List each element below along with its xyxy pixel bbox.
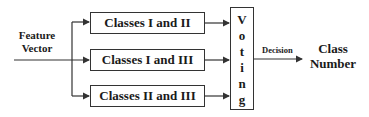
class-label: Class (303, 42, 363, 57)
voting-letter: t (240, 44, 244, 60)
vector-label: Vector (12, 42, 62, 55)
number-label: Number (303, 57, 363, 72)
feature-label: Feature (12, 29, 62, 42)
classifier-box-2-3: Classes II and III (90, 85, 205, 107)
voting-letter: n (238, 76, 245, 92)
classifier-label: Classes II and III (99, 88, 195, 104)
classifier-box-1-2: Classes I and II (90, 12, 205, 34)
feature-vector-label: Feature Vector (12, 29, 62, 54)
decision-label: Decision (262, 46, 293, 56)
voting-letter: V (237, 12, 246, 28)
voting-letter: i (240, 60, 244, 76)
classifier-label: Classes I and III (102, 52, 193, 68)
voting-letter: o (239, 28, 246, 44)
voting-box: V o t i n g (230, 7, 254, 110)
voting-letter: g (239, 92, 246, 108)
classifier-box-1-3: Classes I and III (90, 49, 205, 71)
classifier-label: Classes I and II (104, 15, 190, 31)
class-number-label: Class Number (303, 42, 363, 72)
